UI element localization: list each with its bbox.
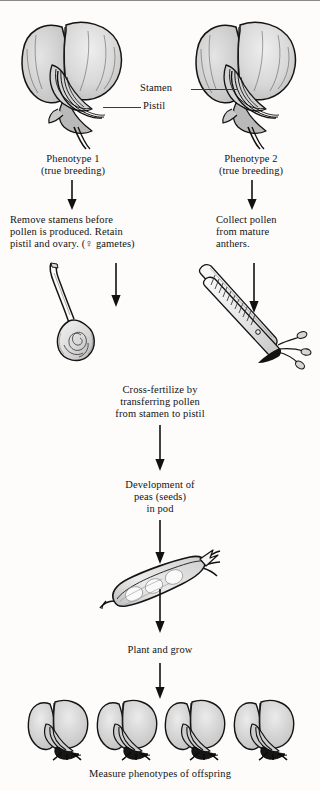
arrow-right-to-cross <box>246 263 262 313</box>
offspring-flower <box>232 698 298 760</box>
pistil-leader-line <box>103 107 141 108</box>
phenotype-2-label: Phenotype 2 <box>186 153 316 165</box>
offspring-caption: Measure phenotypes of offspring <box>10 768 310 780</box>
arrow-cross-to-development <box>152 425 168 471</box>
offspring-flower <box>26 698 92 760</box>
phenotype-1-breeding: (true breeding) <box>8 165 138 177</box>
stamen-leader-line <box>191 89 238 90</box>
pistil-label: Pistil <box>143 100 165 111</box>
step-development: Development of peas (seeds) in pod <box>80 479 240 516</box>
arrow-left-to-cross <box>108 263 124 307</box>
figure-canvas: Stamen Pistil Phenotype 1 (true breeding… <box>0 0 320 791</box>
arrow-plant-to-offspring <box>152 663 168 699</box>
offspring-row <box>26 698 298 760</box>
parent-flower-left <box>18 19 126 149</box>
instruction-left: Remove stamens before pollen is produced… <box>10 214 182 251</box>
offspring-flower <box>163 698 229 760</box>
step-plant-and-grow: Plant and grow <box>80 644 240 656</box>
instruction-right: Collect pollen from mature anthers. <box>216 214 316 251</box>
phenotype-2-breeding: (true breeding) <box>186 165 316 177</box>
arrow-right-to-instruction <box>244 180 260 210</box>
step-cross-fertilize: Cross-fertilize by transferring pollen f… <box>60 384 260 421</box>
pistil-illustration <box>45 261 105 366</box>
parent-flower-right <box>192 19 300 149</box>
stamen-label: Stamen <box>140 82 172 93</box>
offspring-flower <box>95 698 161 760</box>
arrow-pod-to-plant <box>152 589 168 633</box>
arrow-left-to-instruction <box>64 180 80 210</box>
phenotype-1-label: Phenotype 1 <box>8 153 138 165</box>
